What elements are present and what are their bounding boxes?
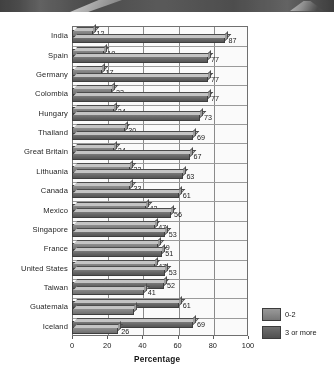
bar-face	[72, 308, 134, 315]
bar-value-label: 53	[169, 230, 177, 239]
bar	[72, 230, 165, 237]
bar-face	[72, 172, 183, 179]
bar-value-label: 67	[193, 152, 201, 161]
bar-face	[72, 211, 171, 218]
bar-side-face	[208, 70, 211, 79]
tick-mark	[248, 336, 249, 339]
bar-top-face	[74, 189, 185, 193]
bar-value-label: 69	[197, 133, 205, 142]
bar-top-face	[74, 73, 213, 77]
bar	[72, 75, 208, 82]
bar	[72, 56, 208, 63]
bar-top-face	[74, 228, 171, 232]
tick-mark	[72, 336, 73, 339]
gridline-80	[214, 27, 215, 335]
category-label: United States	[21, 264, 68, 273]
bar	[72, 250, 162, 257]
bar-top-face	[74, 305, 139, 309]
bar-value-label: 77	[211, 94, 219, 103]
bar	[72, 191, 179, 198]
bar-top-face	[74, 324, 124, 328]
bar-value-label: 53	[169, 268, 177, 277]
legend: 0-2 3 or more	[262, 308, 330, 344]
tick-mark	[178, 336, 179, 339]
bar	[72, 211, 171, 218]
bar-value-label: 56	[174, 210, 182, 219]
bar-face	[72, 250, 162, 257]
bar-value-label: 51	[165, 249, 173, 258]
bar	[72, 172, 183, 179]
category-label: France	[44, 244, 68, 253]
bar-top-face	[74, 208, 176, 212]
tick-mark	[107, 336, 108, 339]
bar-top-face	[74, 124, 131, 128]
bar-top-face	[74, 111, 206, 115]
category-label: Guatemala	[30, 302, 68, 311]
bar-value-label: 87	[229, 36, 237, 45]
scan-artifact-band-top	[0, 0, 334, 12]
bar-value-label: 41	[148, 288, 156, 297]
bar-face	[72, 269, 165, 276]
bar-value-label: 73	[204, 113, 212, 122]
bar	[72, 308, 134, 315]
bar-top-face	[74, 150, 196, 154]
legend-item: 3 or more	[262, 326, 330, 339]
bar	[72, 153, 190, 160]
bar-value-label: 61	[183, 301, 191, 310]
tick-label-60: 60	[173, 341, 181, 350]
bar-top-face	[74, 279, 169, 283]
bar-top-face	[74, 221, 161, 225]
category-label: Taiwan	[44, 283, 68, 292]
bar-top-face	[74, 299, 185, 303]
tick-label-0: 0	[70, 341, 74, 350]
bar-face	[72, 56, 208, 63]
bar-face	[72, 114, 200, 121]
legend-swatch-0-2	[262, 308, 281, 321]
category-label: Spain	[48, 51, 68, 60]
legend-swatch-3-or-more	[262, 326, 281, 339]
tick-mark	[213, 336, 214, 339]
bar-face	[72, 327, 118, 334]
category-label: Mexico	[43, 206, 68, 215]
bar-top-face	[74, 260, 161, 264]
bar-top-face	[74, 247, 168, 251]
bar-top-face	[74, 182, 136, 186]
bar-face	[72, 153, 190, 160]
legend-label-3-or-more: 3 or more	[285, 328, 317, 337]
category-label: Great Britain	[24, 147, 68, 156]
bar-top-face	[74, 163, 136, 167]
tick-label-100: 100	[242, 341, 254, 350]
bar	[72, 327, 118, 334]
category-label: India	[51, 31, 68, 40]
bar	[72, 269, 165, 276]
category-label: Canada	[41, 186, 68, 195]
bar-top-face	[74, 202, 152, 206]
category-label: Thailand	[38, 128, 68, 137]
bar-value-label: 52	[167, 281, 175, 290]
bar-value-label: 26	[121, 327, 129, 336]
bar-value-label: 77	[211, 75, 219, 84]
bar-top-face	[74, 53, 213, 57]
category-label: Germany	[36, 70, 68, 79]
bar	[72, 95, 208, 102]
bar-value-label: 61	[183, 191, 191, 200]
legend-item: 0-2	[262, 308, 330, 321]
bar	[72, 288, 144, 295]
bar-value-label: 69	[197, 320, 205, 329]
axis-title-percentage: Percentage	[134, 355, 180, 364]
bar-top-face	[74, 286, 150, 290]
bar-top-face	[74, 169, 189, 173]
bar	[72, 114, 200, 121]
bar-face	[72, 95, 208, 102]
bar-top-face	[74, 318, 199, 322]
tick-label-80: 80	[209, 341, 217, 350]
bar	[72, 133, 193, 140]
bar-chart: IndiaSpainGermanyColombiaHungaryThailand…	[0, 12, 334, 376]
category-label: Lithuania	[36, 167, 68, 176]
bar-top-face	[74, 92, 213, 96]
legend-label-0-2: 0-2	[285, 310, 296, 319]
category-label: Hungary	[39, 109, 68, 118]
category-label: Singapore	[32, 225, 68, 234]
category-label: Iceland	[43, 322, 68, 331]
bar-top-face	[74, 34, 231, 38]
